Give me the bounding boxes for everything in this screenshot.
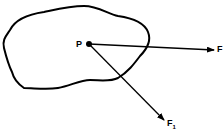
force-diagram: P F F1 <box>0 0 224 136</box>
diagram-canvas <box>0 0 224 136</box>
force-f-arrow <box>89 44 214 50</box>
point-p-label: P <box>76 40 82 49</box>
force-f1-arrow <box>89 44 164 120</box>
force-f-label: F <box>217 45 223 54</box>
force-f1-subscript: 1 <box>173 124 176 130</box>
force-f1-label: F1 <box>167 119 176 130</box>
